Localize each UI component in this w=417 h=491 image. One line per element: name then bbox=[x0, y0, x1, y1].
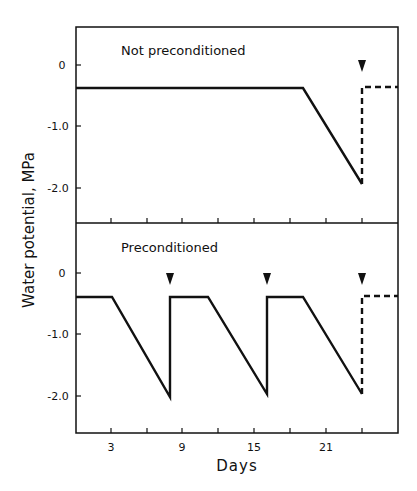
y-tick-label: 0 bbox=[59, 267, 66, 280]
arrow-down-icon bbox=[166, 273, 174, 285]
top-series-dashed bbox=[362, 87, 398, 184]
x-tick-label: 9 bbox=[179, 441, 186, 454]
y-tick-label: -1.0 bbox=[47, 328, 68, 341]
y-tick-label: -2.0 bbox=[47, 390, 68, 403]
x-tick-label: 21 bbox=[319, 441, 333, 454]
x-axis-label: Days bbox=[216, 457, 257, 475]
panel-title-bottom: Preconditioned bbox=[121, 240, 218, 255]
y-tick-label: -2.0 bbox=[47, 182, 68, 195]
x-tick-label: 3 bbox=[108, 441, 115, 454]
arrow-down-icon bbox=[358, 60, 366, 72]
x-tick-label: 15 bbox=[247, 441, 261, 454]
y-axis-label: Water potential, MPa bbox=[20, 152, 38, 308]
y-tick-label: 0 bbox=[59, 59, 66, 72]
bottom-series-dashed bbox=[362, 296, 398, 394]
top-series-solid bbox=[76, 88, 362, 184]
arrow-down-icon bbox=[358, 273, 366, 285]
y-tick-label: -1.0 bbox=[47, 120, 68, 133]
arrow-down-icon bbox=[263, 273, 271, 285]
figure: 0 -1.0 -2.0 0 -1.0 -2.0 3 9 15 21 Days W… bbox=[0, 0, 417, 491]
panel-title-top: Not preconditioned bbox=[121, 43, 246, 58]
bottom-series-solid bbox=[76, 297, 362, 397]
